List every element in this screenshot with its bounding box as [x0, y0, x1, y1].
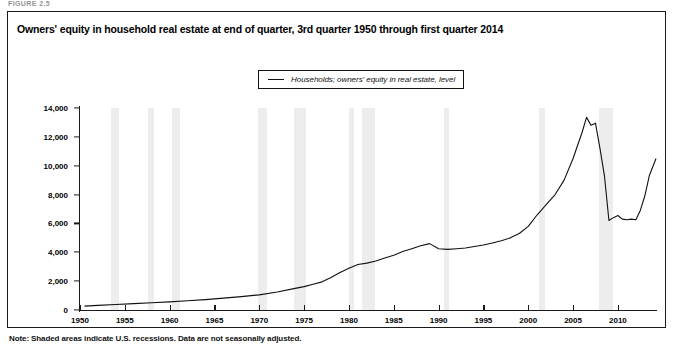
legend-entry-label: Households; owners' equity in real estat…	[291, 75, 455, 84]
chart-note: Note: Shaded areas indicate U.S. recessi…	[9, 334, 301, 343]
x-tick-mark	[349, 305, 350, 310]
x-tick-mark	[80, 305, 81, 310]
x-tick-label: 1960	[161, 316, 179, 325]
chart-title: Owners' equity in household real estate …	[17, 23, 503, 35]
y-tick-label: 10,000	[0, 161, 68, 170]
x-tick-label: 1975	[295, 316, 313, 325]
series-line-households-equity	[80, 108, 656, 310]
y-tick-mark	[74, 165, 79, 166]
y-tick-mark	[74, 281, 79, 282]
x-tick-mark	[170, 305, 171, 310]
x-tick-label: 1995	[475, 316, 493, 325]
y-tick-mark	[74, 194, 79, 195]
figure-container: FIGURE 2.5 Owners' equity in household r…	[0, 0, 674, 353]
y-tick-label: 14,000	[0, 104, 68, 113]
x-tick-label: 2010	[609, 316, 627, 325]
y-tick-label: 2,000	[0, 277, 68, 286]
x-tick-label: 2000	[519, 316, 537, 325]
y-tick-label: 0	[0, 306, 68, 315]
x-tick-label: 1985	[385, 316, 403, 325]
x-tick-mark	[528, 305, 529, 310]
plot-area	[80, 108, 656, 310]
y-tick-mark	[74, 107, 79, 108]
x-tick-mark	[483, 305, 484, 310]
y-tick-mark	[74, 136, 79, 137]
x-tick-mark	[618, 305, 619, 310]
y-tick-mark	[74, 309, 79, 310]
x-tick-label: 2005	[564, 316, 582, 325]
y-tick-label: 8,000	[0, 190, 68, 199]
y-tick-label: 4,000	[0, 248, 68, 257]
x-tick-mark	[304, 305, 305, 310]
x-tick-mark	[214, 305, 215, 310]
series-path	[84, 117, 656, 306]
y-tick-mark	[74, 252, 79, 253]
x-tick-label: 1950	[71, 316, 89, 325]
x-tick-label: 1965	[206, 316, 224, 325]
y-tick-label: 6,000	[0, 219, 68, 228]
legend-line-swatch-icon	[268, 79, 284, 80]
y-tick-mark	[74, 223, 79, 224]
x-tick-mark	[439, 305, 440, 310]
x-tick-mark	[125, 305, 126, 310]
x-axis-line	[79, 310, 657, 311]
x-tick-mark	[573, 305, 574, 310]
x-tick-label: 1980	[340, 316, 358, 325]
x-tick-label: 1990	[430, 316, 448, 325]
y-tick-label: 12,000	[0, 132, 68, 141]
figure-label: FIGURE 2.5	[8, 0, 50, 7]
x-tick-label: 1955	[116, 316, 134, 325]
x-tick-mark	[259, 305, 260, 310]
y-axis-line	[79, 106, 80, 312]
x-tick-mark	[394, 305, 395, 310]
chart-legend: Households; owners' equity in real estat…	[258, 70, 464, 89]
x-tick-label: 1970	[250, 316, 268, 325]
